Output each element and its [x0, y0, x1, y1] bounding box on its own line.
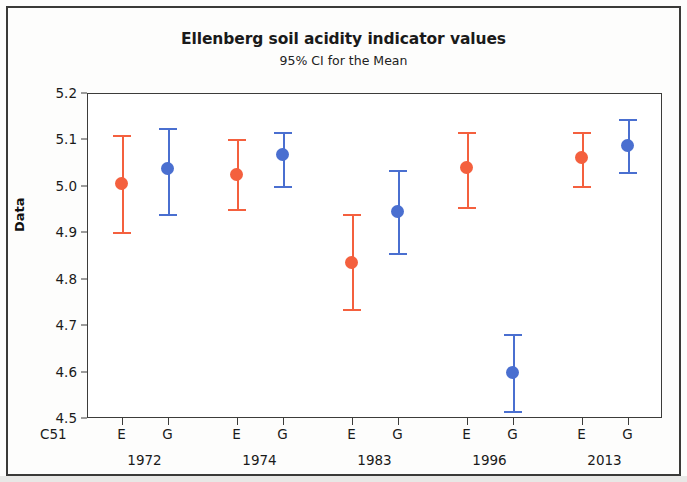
x-axis-category-label: 1974 — [220, 452, 300, 468]
x-axis-group-label: E — [217, 426, 257, 442]
plot-frame — [87, 93, 662, 418]
x-axis-group-label: E — [332, 426, 372, 442]
y-axis-tick-label: 4.5 — [17, 410, 77, 426]
y-axis-tick-mark — [81, 371, 87, 372]
y-axis-tick-label: 5.0 — [17, 178, 77, 194]
x-axis-tick-mark — [513, 418, 514, 425]
x-axis-category-label: 1983 — [335, 452, 415, 468]
x-axis-category-label: 2013 — [565, 452, 645, 468]
y-axis-tick-mark — [81, 232, 87, 233]
x-axis-group-label: G — [263, 426, 303, 442]
y-axis-tick-mark — [81, 185, 87, 186]
y-axis-tick-mark — [81, 418, 87, 419]
x-axis-group-label: G — [148, 426, 188, 442]
y-axis-tick-mark — [81, 139, 87, 140]
x-axis-tick-mark — [582, 418, 583, 425]
x-axis-category-label: 1972 — [105, 452, 185, 468]
y-axis-tick-mark — [81, 325, 87, 326]
y-axis-tick-label: 4.7 — [17, 317, 77, 333]
x-axis-tick-mark — [352, 418, 353, 425]
figure-root: Ellenberg soil acidity indicator values … — [0, 0, 687, 482]
x-axis-corner-label: C51 — [40, 426, 67, 442]
x-axis-tick-mark — [398, 418, 399, 425]
x-axis-tick-mark — [168, 418, 169, 425]
x-axis-tick-mark — [283, 418, 284, 425]
x-axis-tick-mark — [628, 418, 629, 425]
x-axis-group-label: E — [562, 426, 602, 442]
x-axis-group-label: G — [378, 426, 418, 442]
chart-subtitle: 95% CI for the Mean — [0, 53, 687, 68]
page-title: Ellenberg soil acidity indicator values — [0, 30, 687, 48]
y-axis-tick-mark — [81, 278, 87, 279]
y-axis-tick-mark — [81, 93, 87, 94]
x-axis-category-label: 1996 — [450, 452, 530, 468]
page-shadow — [0, 476, 687, 482]
y-axis-tick-label: 5.2 — [17, 85, 77, 101]
y-axis-tick-label: 4.6 — [17, 364, 77, 380]
y-axis-tick-label: 4.9 — [17, 224, 77, 240]
x-axis-tick-mark — [237, 418, 238, 425]
x-axis-group-label: G — [493, 426, 533, 442]
x-axis-group-label: E — [102, 426, 142, 442]
x-axis-tick-mark — [122, 418, 123, 425]
y-axis-tick-label: 5.1 — [17, 131, 77, 147]
y-axis-tick-label: 4.8 — [17, 271, 77, 287]
x-axis-group-label: G — [608, 426, 648, 442]
x-axis-tick-mark — [467, 418, 468, 425]
x-axis-group-label: E — [447, 426, 487, 442]
